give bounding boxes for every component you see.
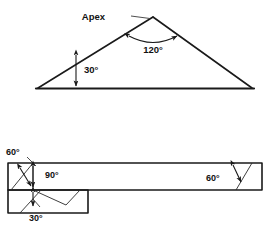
lower-block-outline (8, 190, 88, 213)
bottom-angle-label: 30° (29, 213, 43, 223)
chamfer-line-c (33, 190, 66, 205)
right-angle-dimension (233, 165, 241, 182)
chamfer-line-a (11, 163, 33, 190)
apex-angle-label: 120° (143, 44, 163, 55)
chamfer-line-b (20, 190, 41, 213)
bottom-angle-leader (33, 199, 40, 207)
apex-angle-arc (129, 36, 177, 43)
triangle-left-edge (38, 17, 153, 88)
top-left-angle-label: 60° (6, 147, 20, 157)
apex-leader-line (131, 16, 150, 19)
triangle-right-edge (153, 17, 252, 88)
figure-root: Apex 120° 30° (0, 0, 275, 227)
upper-triangle-group: Apex 120° 30° (36, 11, 254, 89)
right-angle-label: 60° (206, 173, 220, 183)
lower-bar-group: 60° 90° 30° 60° (6, 147, 262, 223)
base-angle-label: 30° (84, 64, 99, 75)
apex-label: Apex (82, 11, 106, 22)
technical-diagram: Apex 120° 30° (0, 0, 275, 227)
inner-angle-label: 90° (45, 170, 59, 180)
chamfer-line-d (66, 190, 80, 205)
